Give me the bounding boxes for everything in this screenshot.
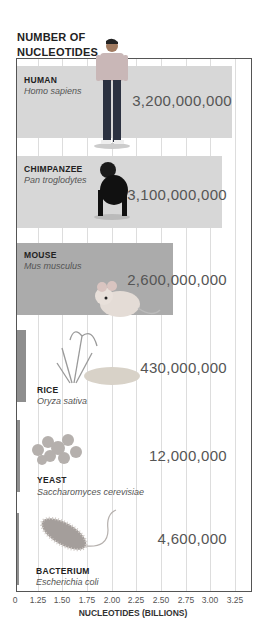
nucleotide-chart: NUMBER OF NUCLEOTIDES [0,0,266,632]
sci-chimpanzee: Pan troglodytes [24,175,87,185]
sci-rice: Oryza sativa [37,396,87,406]
bacterium-icon [36,508,118,564]
sci-mouse: Mus musculus [24,261,82,271]
x-tick: 1.50 [54,595,71,605]
sci-bacterium: Escherichia coli [36,577,99,587]
bar-rice [17,330,26,402]
value-human: 3,200,000,000 [132,92,232,109]
label-human: HUMAN [24,75,57,85]
sci-human: Homo sapiens [24,86,82,96]
x-tick: 3.25 [227,595,244,605]
x-tick: 2.25 [128,595,145,605]
human-figure-icon [92,38,132,150]
x-tick: 1.25 [30,595,47,605]
x-tick: 3.00 [202,595,219,605]
value-yeast: 12,000,000 [149,447,227,464]
chimpanzee-icon [92,160,132,220]
rice-plant-icon [52,318,147,386]
x-axis-title: NUCLEOTIDES (BILLIONS) [0,608,266,618]
label-rice: RICE [37,385,59,395]
x-tick: 1.75 [79,595,96,605]
bar-bacterium [17,513,19,585]
x-tick: 0 [13,595,18,605]
x-tick: 2.50 [153,595,170,605]
value-mouse: 2,600,000,000 [127,271,227,288]
label-chimpanzee: CHIMPANZEE [24,164,83,174]
label-mouse: MOUSE [24,250,57,260]
x-tick: 2.75 [178,595,195,605]
yeast-cells-icon [28,428,88,468]
value-rice: 430,000,000 [140,359,227,376]
label-yeast: YEAST [37,475,67,485]
bar-yeast [17,420,20,492]
x-tick: 2.00 [104,595,121,605]
sci-yeast: Saccharomyces cerevisiae [37,487,144,497]
chart-title: NUMBER OF NUCLEOTIDES [17,30,98,60]
label-bacterium: BACTERIUM [36,566,90,576]
value-bacterium: 4,600,000 [158,530,227,547]
value-chimpanzee: 3,100,000,000 [127,186,227,203]
